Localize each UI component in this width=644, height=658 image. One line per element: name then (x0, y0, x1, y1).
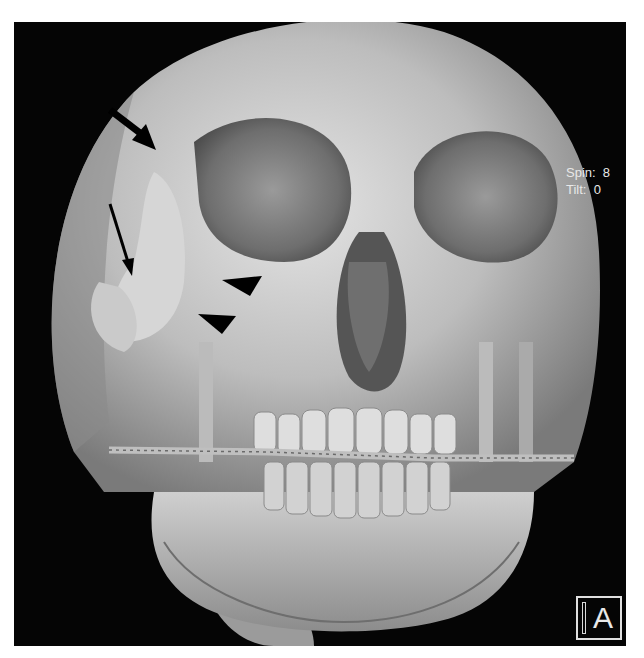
orientation-label: A (593, 601, 613, 634)
thick-arrow-icon (106, 106, 166, 156)
orientation-marker: A (576, 596, 622, 640)
spin-readout: Spin: 8 (566, 165, 610, 181)
thin-arrow-icon (106, 200, 142, 280)
arrowhead-icon (220, 272, 264, 300)
tilt-readout: Tilt: 0 (566, 182, 601, 198)
orientation-bar-icon (582, 602, 586, 634)
ct-render-viewport: Spin: 8 Tilt: 0 A (14, 22, 626, 646)
arrowhead-icon (196, 308, 240, 336)
